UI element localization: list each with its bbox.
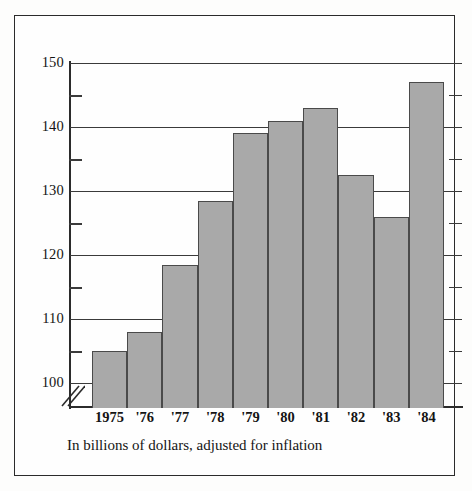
bar-82[interactable]	[338, 175, 373, 408]
bars-group	[70, 63, 462, 407]
x-tick-label-84: '84	[403, 409, 450, 426]
x-axis-labels-group: 1975'76'77'78'79'80'81'82'83'84	[70, 409, 462, 433]
bar-1975[interactable]	[92, 351, 127, 408]
plot-area: 100110120130140150	[70, 63, 462, 407]
chart-outer-frame: 100110120130140150 1975'76'77'78'79'80'8…	[14, 15, 455, 476]
y-tick-label-150: 150	[42, 54, 64, 71]
y-tick-label-140: 140	[42, 118, 64, 135]
bar-76[interactable]	[127, 332, 162, 408]
bar-84[interactable]	[409, 82, 444, 408]
y-tick-label-120: 120	[42, 246, 64, 263]
y-tick-label-100: 100	[42, 374, 64, 391]
y-tick-label-130: 130	[42, 182, 64, 199]
bar-78[interactable]	[198, 201, 233, 408]
bar-83[interactable]	[374, 217, 409, 408]
y-tick-label-110: 110	[42, 310, 64, 327]
bar-81[interactable]	[303, 108, 338, 408]
chart-caption: In billions of dollars, adjusted for inf…	[67, 437, 322, 454]
bar-80[interactable]	[268, 121, 303, 408]
figure-container: 100110120130140150 1975'76'77'78'79'80'8…	[0, 0, 472, 491]
bar-77[interactable]	[162, 265, 197, 408]
bar-79[interactable]	[233, 133, 268, 408]
